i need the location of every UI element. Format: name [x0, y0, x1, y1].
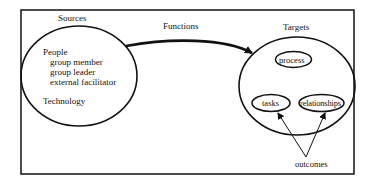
people-item: group member [50, 57, 103, 67]
outcome-arrow-relationships [306, 113, 325, 157]
tasks-label: tasks [262, 98, 279, 108]
people-item: external facilitator [50, 77, 116, 87]
functions-label: Functions [163, 21, 199, 31]
outcomes-label: outcomes [295, 159, 328, 169]
process-label: process [279, 55, 305, 65]
people-item: group leader [50, 67, 95, 77]
functions-arrow [126, 41, 252, 53]
people-label: People [43, 47, 68, 57]
frame-border [21, 10, 354, 174]
targets-title: Targets [283, 22, 309, 32]
technology-label: Technology [43, 96, 85, 106]
relationships-label: relationships [300, 98, 341, 108]
sources-title: Sources [58, 13, 87, 23]
